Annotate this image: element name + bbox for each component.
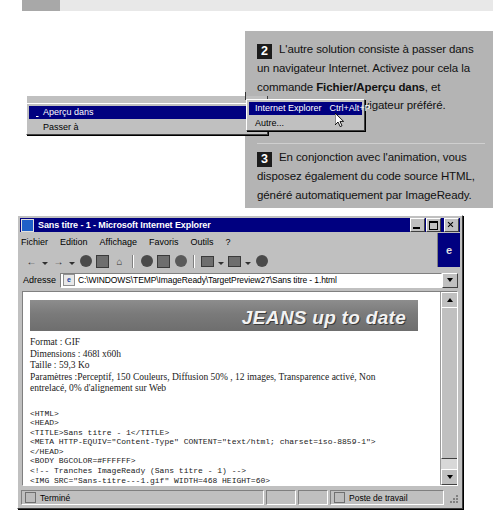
file-info-format: Format : GIF xyxy=(30,337,441,349)
address-label: Adresse xyxy=(23,275,56,285)
step-number-badge: 3 xyxy=(257,152,272,167)
callout-divider xyxy=(257,143,485,144)
address-value: C:\WINDOWS\TEMP\ImageReady\TargetPreview… xyxy=(78,275,337,285)
mail-dropdown-icon[interactable] xyxy=(218,262,224,265)
scroll-up-button[interactable] xyxy=(441,292,458,308)
maximize-button[interactable] xyxy=(426,218,441,232)
context-menu-item-label: Passer à xyxy=(43,122,79,132)
caret-down-icon xyxy=(447,475,453,479)
back-icon[interactable]: ← xyxy=(24,254,39,269)
file-info-dimensions: Dimensions : 468l x60h xyxy=(30,349,441,361)
browser-toolbar[interactable]: ← → ⌂ xyxy=(21,251,436,271)
submenu[interactable]: Internet Explorer Ctrl+Alt+P Autre... xyxy=(246,99,365,131)
callout-step-2-text-bold: Fichier/Aperçu dans xyxy=(316,81,425,93)
internet-explorer-icon xyxy=(21,219,34,232)
page-scrollbar[interactable] xyxy=(440,292,457,485)
jeans-banner-image: JEANS up to date xyxy=(30,300,418,331)
toolbar-separator xyxy=(193,255,195,268)
address-dropdown-button[interactable] xyxy=(442,273,458,288)
status-text: Terminé xyxy=(40,493,70,503)
menu-outils[interactable]: Outils xyxy=(190,237,213,247)
internet-explorer-window[interactable]: Sans titre - 1 - Microsoft Internet Expl… xyxy=(17,215,463,509)
search-icon[interactable] xyxy=(139,254,154,269)
step-number-badge: 2 xyxy=(257,44,272,59)
computer-icon xyxy=(334,492,345,503)
callout-step-3: 3En conjonction avec l'animation, vous d… xyxy=(257,148,485,204)
menu-aide[interactable]: ? xyxy=(225,237,230,247)
file-info-parameters-line1: Paramètres :Perceptif, 150 Couleurs, Dif… xyxy=(30,372,441,384)
forward-dropdown-icon[interactable] xyxy=(69,262,75,265)
jeans-banner-text: JEANS up to date xyxy=(242,307,406,329)
status-segment-2 xyxy=(298,490,328,505)
page-content: JEANS up to date Format : GIF Dimensions… xyxy=(23,292,441,485)
ie-logo-letter: e xyxy=(438,233,460,267)
scroll-down-button[interactable] xyxy=(441,469,458,485)
toolbar-separator xyxy=(132,255,134,268)
address-input[interactable]: e C:\WINDOWS\TEMP\ImageReady\TargetPrevi… xyxy=(60,273,442,288)
mouse-cursor-icon xyxy=(335,113,344,127)
resize-grip[interactable] xyxy=(446,490,459,505)
menu-favoris[interactable]: Favoris xyxy=(149,237,179,247)
browser-brand-logo: e xyxy=(437,233,460,267)
status-segment-1 xyxy=(266,490,296,505)
window-title: Sans titre - 1 - Microsoft Internet Expl… xyxy=(38,220,409,230)
context-menu-item-passer-a[interactable]: Passer à xyxy=(29,121,265,134)
close-button[interactable] xyxy=(444,218,459,232)
security-zone: Poste de travail xyxy=(330,490,444,505)
page-viewport: JEANS up to date Format : GIF Dimensions… xyxy=(22,291,458,486)
history-icon[interactable] xyxy=(173,254,188,269)
refresh-icon[interactable] xyxy=(95,254,110,269)
file-info-size: Taille : 59,3 Ko xyxy=(30,360,441,372)
submenu-item-label: Autre... xyxy=(255,118,284,128)
chevron-down-icon xyxy=(447,278,453,282)
menu-edition[interactable]: Edition xyxy=(60,237,88,247)
print-icon[interactable] xyxy=(227,254,242,269)
status-bar: Terminé Poste de travail xyxy=(21,490,459,505)
minimize-button[interactable] xyxy=(410,218,425,232)
caret-up-icon xyxy=(447,298,453,302)
page-header-band-accent xyxy=(22,0,60,11)
home-icon[interactable]: ⌂ xyxy=(112,254,127,269)
context-menu-item-label: Aperçu dans xyxy=(43,107,94,117)
menu-mnemonic-underline xyxy=(36,106,39,119)
forward-icon[interactable]: → xyxy=(51,254,66,269)
address-bar[interactable]: Adresse e C:\WINDOWS\TEMP\ImageReady\Tar… xyxy=(21,272,458,288)
page-header-band xyxy=(22,0,493,11)
submenu-item-internet-explorer[interactable]: Internet Explorer Ctrl+Alt+P xyxy=(249,102,362,115)
menu-bar[interactable]: Fichier Edition Affichage Favoris Outils… xyxy=(21,234,459,249)
file-info-parameters-line2: entrelacé, 0% d'alignement sur Web xyxy=(30,383,441,395)
edit-icon[interactable] xyxy=(254,254,269,269)
print-dropdown-icon[interactable] xyxy=(245,262,251,265)
page-icon: e xyxy=(63,274,75,286)
menu-fichier[interactable]: Fichier xyxy=(21,237,48,247)
stop-icon[interactable] xyxy=(78,254,93,269)
html-source-code: <HTML> <HEAD> <TITLE>Sans titre - 1</TIT… xyxy=(30,409,441,486)
file-info-block: Format : GIF Dimensions : 468l x60h Tail… xyxy=(30,337,441,395)
context-menu[interactable]: Aperçu dans Passer à xyxy=(26,103,268,135)
page-done-icon xyxy=(25,492,36,503)
callout-step-3-text: En conjonction avec l'animation, vous di… xyxy=(257,151,475,201)
security-zone-text: Poste de travail xyxy=(349,493,408,503)
status-message: Terminé xyxy=(21,490,264,505)
menu-affichage[interactable]: Affichage xyxy=(100,237,137,247)
submenu-item-label: Internet Explorer xyxy=(255,102,322,115)
submenu-item-autre[interactable]: Autre... xyxy=(249,117,362,130)
context-menu-item-apercu-dans[interactable]: Aperçu dans xyxy=(29,106,265,119)
scrollbar-thumb[interactable] xyxy=(441,307,458,459)
favorites-icon[interactable] xyxy=(156,254,171,269)
window-titlebar[interactable]: Sans titre - 1 - Microsoft Internet Expl… xyxy=(20,218,460,232)
back-dropdown-icon[interactable] xyxy=(42,262,48,265)
mail-icon[interactable] xyxy=(200,254,215,269)
